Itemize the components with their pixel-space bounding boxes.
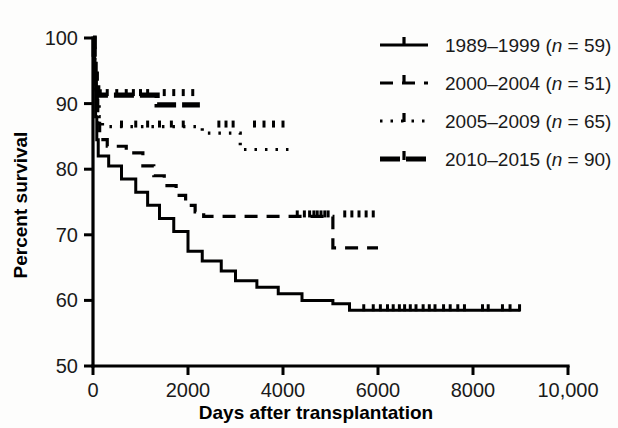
chart-canvas: 5060708090100 0200040006000800010,000 19… (0, 0, 618, 428)
legend-entry-label: 2010–2015 (n = 90) (445, 149, 611, 170)
x-tick-label: 10,000 (537, 379, 598, 401)
survival-curve-2000-2004 (93, 38, 378, 248)
x-axis-title: Days after transplantation (199, 402, 433, 423)
legend: 1989–1999 (n = 59)2000–2004 (n = 51)2005… (380, 35, 611, 170)
legend-entry-label: 1989–1999 (n = 59) (445, 35, 611, 56)
x-axis-tick-labels: 0200040006000800010,000 (87, 379, 598, 401)
x-tick-label: 4000 (261, 379, 306, 401)
y-tick-label: 90 (56, 93, 78, 115)
x-tick-label: 0 (87, 379, 98, 401)
y-tick-label: 70 (56, 224, 78, 246)
legend-entry-label: 2000–2004 (n = 51) (445, 73, 611, 94)
y-tick-label: 50 (56, 355, 78, 377)
survival-chart-figure: 5060708090100 0200040006000800010,000 19… (0, 0, 618, 428)
x-tick-label: 8000 (451, 379, 496, 401)
x-tick-label: 2000 (166, 379, 211, 401)
legend-entry-label: 2005–2009 (n = 65) (445, 111, 611, 132)
y-tick-label: 60 (56, 289, 78, 311)
y-tick-label: 100 (45, 27, 78, 49)
y-tick-label: 80 (56, 158, 78, 180)
y-axis-title: Percent survival (10, 132, 31, 279)
x-tick-label: 6000 (356, 379, 401, 401)
y-axis-tick-labels: 5060708090100 (45, 27, 78, 377)
